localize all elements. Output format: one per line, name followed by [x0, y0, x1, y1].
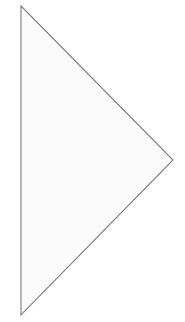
diagram-svg: [0, 0, 185, 322]
shape-canvas: [0, 0, 185, 322]
